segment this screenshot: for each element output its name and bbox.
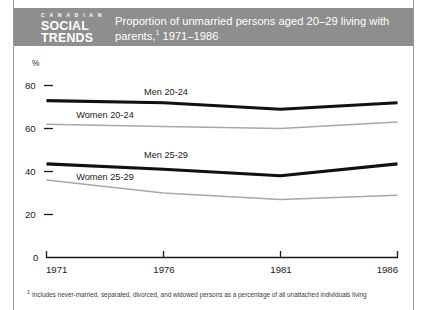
y-tick-label-20: 20 <box>25 209 36 220</box>
chart-title-footnote-marker: 1 <box>155 29 159 36</box>
y-axis-unit-label: % <box>32 58 40 68</box>
series-label-women-25-29: Women 25-29 <box>76 172 134 182</box>
y-tick-label-40: 40 <box>25 166 36 177</box>
chart-header-band: C A N A D I A N SOCIAL TRENDS Proportion… <box>14 8 413 46</box>
series-label-men-25-29: Men 25-29 <box>144 150 188 160</box>
logo-line-trends: TRENDS <box>41 32 107 44</box>
chart-title-years: 1971–1986 <box>162 30 218 42</box>
y-tick-label-0: 0 <box>33 252 38 263</box>
x-axis: 1971 1976 1981 1986 <box>46 251 398 275</box>
plot-area: % 80 60 40 20 0 1971 <box>14 46 413 284</box>
y-axis: 80 60 40 20 0 <box>25 80 53 263</box>
logo-line-canadian: C A N A D I A N <box>41 13 107 18</box>
series-label-women-20-24: Women 20-24 <box>76 110 134 120</box>
y-tick-label-60: 60 <box>25 123 36 134</box>
series-line-women-20-24 <box>47 122 398 129</box>
footnote-marker: 1 <box>27 289 30 295</box>
series-line-men-20-24 <box>47 101 398 110</box>
series-line-women-25-29 <box>47 180 398 199</box>
y-tick-label-80: 80 <box>25 80 36 91</box>
x-tick-label-1976: 1976 <box>153 264 174 275</box>
chart-footnote: 1Includes never-married, separated, divo… <box>27 291 402 299</box>
footnote-text: Includes never-married, separated, divor… <box>32 291 367 298</box>
chart-title: Proportion of unmarried persons aged 20–… <box>107 8 413 44</box>
figure-right-rule <box>413 0 414 310</box>
series-label-men-20-24: Men 20-24 <box>144 87 188 97</box>
chart-svg: % 80 60 40 20 0 1971 <box>14 46 413 284</box>
x-tick-label-1981: 1981 <box>270 264 291 275</box>
chart-figure: C A N A D I A N SOCIAL TRENDS Proportion… <box>0 0 427 310</box>
publication-logo: C A N A D I A N SOCIAL TRENDS <box>14 8 107 44</box>
x-tick-label-1986: 1986 <box>377 264 398 275</box>
x-tick-label-1971: 1971 <box>46 264 67 275</box>
